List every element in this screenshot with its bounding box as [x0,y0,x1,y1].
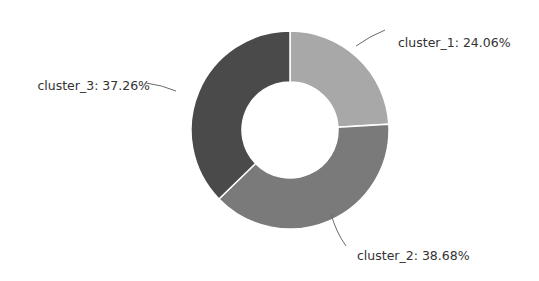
segment-cluster-3[interactable] [191,31,290,199]
segment-cluster-2[interactable] [219,124,389,229]
segment-cluster-1[interactable] [290,31,389,127]
donut-segments [191,31,389,229]
label-cluster-2: cluster_2: 38.68% [357,248,470,263]
leader-line-cluster-3 [146,83,176,91]
label-cluster-1: cluster_1: 24.06% [398,35,511,50]
label-cluster-3: cluster_3: 37.26% [37,78,150,93]
donut-chart: cluster_1: 24.06% cluster_2: 38.68% clus… [0,0,539,281]
leader-line-cluster-1 [356,30,385,46]
